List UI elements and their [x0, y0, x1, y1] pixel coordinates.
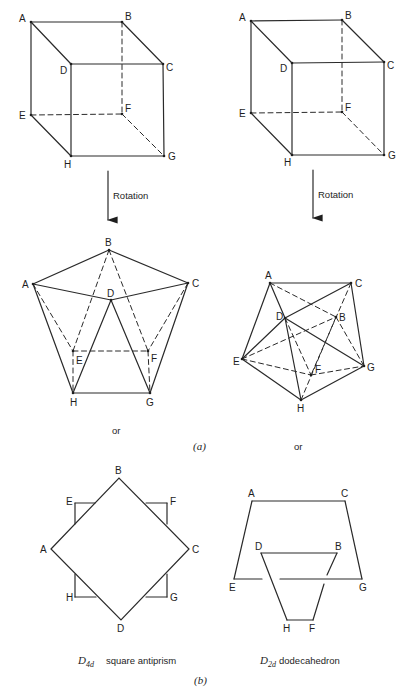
antiprism-symbol: D4d [77, 654, 95, 669]
left-cube-label-e: E [19, 110, 26, 121]
dodeca-edge-cg [345, 501, 362, 579]
right-cube-vertex-g [383, 154, 386, 157]
right-cube-hidden-edge-ef [251, 112, 342, 113]
rot-left-hidden-edge-fg [148, 351, 150, 393]
left-cube-diagram: ABCDEFGH [19, 11, 176, 170]
rot-right-vertex-e [241, 358, 244, 361]
rot-right-label-a: A [265, 270, 272, 281]
right-rotation-arrow: Rotation [313, 170, 353, 218]
rot-right-label-c: C [355, 278, 362, 289]
left-cube-label-g: G [168, 151, 176, 162]
dodecahedron-caption: D2d dodecahedron [259, 654, 340, 669]
rot-right-vertex-a [269, 282, 272, 285]
rot-right-label-h: H [297, 403, 304, 414]
right-cube-label-a: A [239, 12, 246, 23]
dodeca-label-b: B [335, 541, 342, 552]
dodecahedron-caption-text: dodecahedron [279, 655, 340, 666]
left-cube-edge-eh [31, 115, 71, 156]
rot-right-label-g: G [367, 362, 375, 373]
rot-right-edge-ae [242, 283, 270, 359]
dodecahedron-symbol: D2d [259, 654, 277, 669]
right-cube-edge-bc [342, 20, 384, 62]
rotated-dodecahedron-view: ABCDEFGH [233, 270, 375, 414]
rot-right-vertex-c [350, 282, 353, 285]
left-cube-vertex-f [121, 113, 124, 116]
rot-right-label-b: B [339, 312, 346, 323]
rot-right-edge-eh [242, 359, 301, 400]
rot-right-hidden-edge-ef [242, 359, 311, 375]
dodeca-label-f: F [309, 623, 315, 634]
left-cube-hidden-edge-ef [31, 114, 122, 115]
rot-right-vertex-b [335, 316, 338, 319]
polyhedra-figure: ABCDEFGH ABCDEFGH Rotation Rotation ABCD… [0, 0, 415, 697]
right-cube-label-d: D [280, 63, 287, 74]
right-cube-vertex-d [291, 62, 294, 65]
left-cube-label-d: D [60, 65, 67, 76]
left-cube-label-f: F [125, 103, 131, 114]
rot-left-label-e: E [76, 355, 83, 366]
right-cube-vertex-h [291, 154, 294, 157]
rot-right-vertex-g [363, 365, 366, 368]
right-cube-vertex-e [250, 112, 253, 115]
right-cube-vertex-b [341, 19, 344, 22]
rot-left-label-g: G [146, 397, 154, 408]
left-cube-hidden-edge-fg [122, 114, 164, 156]
rot-left-edge-ab [33, 250, 109, 284]
right-cube-edge-eh [251, 113, 292, 155]
rot-left-label-a: A [22, 279, 29, 290]
right-cube-vertex-c [383, 61, 386, 64]
right-cube-label-f: F [345, 102, 351, 113]
rot-left-vertex-g [149, 392, 152, 395]
right-or-label: or [294, 441, 302, 452]
antiprism-label-f: F [170, 496, 176, 507]
right-cube-vertex-a [250, 20, 253, 23]
rot-left-vertex-a [32, 283, 35, 286]
dodeca-label-c: C [341, 488, 348, 499]
right-cube-label-c: C [387, 60, 394, 71]
right-cube-label-g: G [388, 150, 396, 161]
right-cube-label-h: H [284, 157, 291, 168]
rot-left-edge-ah [33, 284, 73, 393]
left-cube-vertex-a [30, 21, 33, 24]
rot-left-vertex-d [110, 299, 113, 302]
left-cube-vertex-h [70, 155, 73, 158]
dodecahedron-symbol-main: D [259, 654, 268, 666]
antiprism-label-h: H [66, 592, 73, 603]
rot-left-edge-bc [109, 250, 188, 283]
dodeca-edge-ae [234, 501, 252, 579]
dodeca-label-a: A [248, 488, 255, 499]
dodeca-edge-bf-upper [327, 553, 337, 575]
rot-left-vertex-e [72, 350, 75, 353]
rot-left-vertex-c [187, 282, 190, 285]
dodeca-label-e: E [229, 582, 236, 593]
dodecahedron-symbol-sub: 2d [268, 660, 277, 669]
antiprism-symbol-sub: 4d [86, 660, 95, 669]
rot-left-vertex-h [72, 392, 75, 395]
rot-right-label-f: F [315, 364, 321, 375]
rot-left-vertex-b [108, 249, 111, 252]
right-cube-diagram: ABCDEFGH [239, 10, 396, 168]
antiprism-label-b: B [115, 465, 122, 476]
rot-right-hidden-edge-eb [242, 317, 336, 359]
left-cube-edge-cg [163, 64, 164, 156]
rot-left-vertex-f [147, 350, 150, 353]
right-cube-edge-dc [292, 62, 384, 63]
left-or-label: or [112, 425, 120, 436]
left-cube-vertex-c [162, 63, 165, 66]
left-rotation-label: Rotation [113, 190, 148, 201]
dodecahedron-projection: ABCDEFGH [229, 488, 367, 634]
antiprism-symbol-main: D [77, 654, 86, 666]
rot-right-vertex-d [284, 317, 287, 320]
rot-right-vertex-h [300, 399, 303, 402]
left-cube-label-c: C [166, 62, 173, 73]
rot-right-edge-dg [285, 318, 364, 366]
rot-left-hidden-edge-bf [109, 250, 148, 351]
rot-right-label-d: D [276, 311, 283, 322]
left-cube-label-a: A [19, 13, 26, 24]
right-cube-label-b: B [345, 10, 352, 21]
left-cube-edge-ad [31, 22, 71, 64]
rot-left-label-d: D [107, 288, 114, 299]
dodeca-edge-bf-lower [313, 584, 324, 620]
left-cube-vertex-g [163, 155, 166, 158]
left-rotation-arrow: Rotation [108, 171, 148, 220]
